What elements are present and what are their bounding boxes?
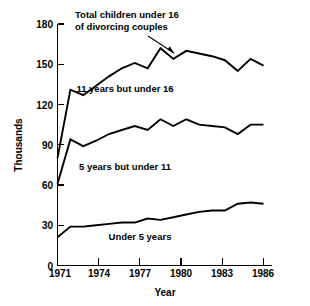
x-axis-tick-labels: 1971 1974 1977 1980 1983 1986: [49, 268, 275, 279]
series-label-bottom: Under 5 years: [109, 231, 172, 242]
y-axis-tick-labels: 180 150 120 90 60 30 0: [36, 19, 53, 272]
callout-line-2: of divorcing couples: [75, 21, 168, 32]
y-axis-title: Thousands: [13, 118, 24, 172]
x-tick-1971: 1971: [49, 268, 72, 279]
y-tick-120: 120: [36, 100, 53, 111]
series-line-5-to-11: [58, 119, 264, 183]
x-tick-1974: 1974: [88, 268, 111, 279]
series-label-mid: 5 years but under 11: [79, 161, 172, 172]
y-tick-60: 60: [42, 180, 54, 191]
callout-arrowhead: [168, 46, 175, 53]
callout-line-1: Total children under 16: [75, 9, 179, 20]
chart-axes: [58, 24, 273, 266]
total-children-callout: Total children under 16 of divorcing cou…: [75, 9, 179, 53]
y-tick-150: 150: [36, 59, 53, 70]
series-label-top: 11 years but under 16: [76, 83, 173, 94]
x-tick-1983: 1983: [211, 268, 234, 279]
y-tick-30: 30: [42, 220, 54, 231]
x-axis-ticks: [58, 258, 264, 266]
x-tick-1977: 1977: [129, 268, 152, 279]
x-axis-title: Year: [154, 287, 175, 298]
y-tick-180: 180: [36, 19, 53, 30]
line-chart: 180 150 120 90 60 30 0 Thousands 1971 19…: [0, 0, 310, 306]
chart-canvas: 180 150 120 90 60 30 0 Thousands 1971 19…: [0, 0, 310, 306]
y-tick-90: 90: [42, 140, 54, 151]
x-tick-1980: 1980: [170, 268, 193, 279]
x-tick-1986: 1986: [252, 268, 275, 279]
series-line-11-to-16: [58, 48, 264, 158]
